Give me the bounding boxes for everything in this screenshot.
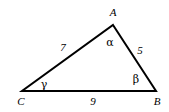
triangle-outline [0, 0, 169, 112]
angle-label-gamma: γ [41, 79, 48, 90]
side-label-ab: 5 [137, 45, 143, 56]
vertex-label-c: C [17, 96, 24, 107]
angle-label-beta: β [133, 74, 139, 85]
triangle-figure: A B C 7 5 9 α β γ [0, 0, 169, 112]
vertex-label-b: B [154, 96, 161, 107]
side-label-ca: 7 [60, 42, 66, 53]
side-label-cb: 9 [90, 96, 96, 107]
vertex-label-a: A [110, 7, 117, 18]
angle-label-alpha: α [106, 37, 113, 48]
